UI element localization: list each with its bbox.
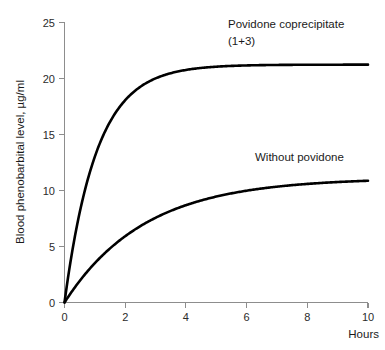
y-tick-label-25: 25 [43, 17, 55, 29]
annotation-povidone-coprecipitate-line1: Povidone coprecipitate [228, 18, 344, 30]
x-tick-label-6: 6 [244, 311, 250, 323]
y-axis-ticks [59, 23, 65, 303]
y-tick-label-10: 10 [43, 185, 55, 197]
chart-container: 25 20 15 10 5 0 0 2 4 6 8 10 Blood pheno… [0, 0, 385, 350]
annotation-povidone-coprecipitate-line2: (1+3) [228, 35, 255, 47]
x-tick-label-0: 0 [61, 311, 67, 323]
y-tick-label-5: 5 [49, 241, 55, 253]
series-line-without-povidone [65, 181, 369, 303]
x-axis-ticks [65, 303, 369, 309]
x-axis-title: Hours [348, 328, 379, 340]
y-axis-title: Blood phenobarbital level, µg/ml [14, 80, 26, 244]
y-tick-label-20: 20 [43, 73, 55, 85]
x-tick-label-10: 10 [362, 311, 374, 323]
annotation-without-povidone: Without povidone [255, 151, 344, 163]
y-tick-label-0: 0 [49, 297, 55, 309]
y-tick-label-15: 15 [43, 129, 55, 141]
x-tick-label-4: 4 [183, 311, 189, 323]
line-chart: 25 20 15 10 5 0 0 2 4 6 8 10 Blood pheno… [0, 0, 385, 350]
x-tick-label-8: 8 [304, 311, 310, 323]
x-tick-label-2: 2 [122, 311, 128, 323]
